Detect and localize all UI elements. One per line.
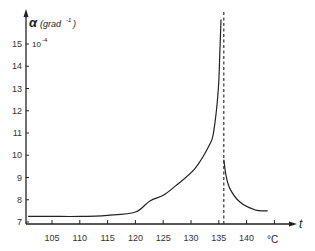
y-axis-symbol: α [29,15,38,30]
curve-above-transition [224,160,268,211]
x-tick-label: 125 [156,233,171,243]
y-tick-label: 8 [17,195,22,205]
y-tick-label: 13 [12,84,22,94]
y-axis: 789101112131415 [12,9,29,227]
y-tick-label: 9 [17,173,22,183]
x-tick-label: 120 [128,233,143,243]
x-axis: 105110115120125130135140 [26,220,297,243]
y-tick-label: 12 [12,106,22,116]
x-tick-label: 140 [239,233,254,243]
x-tick-label: 110 [73,233,87,243]
x-tick-label: 130 [183,233,198,243]
curve-below-transition [28,20,221,217]
x-tick-label: 135 [211,233,226,243]
x-axis-symbol: t [299,217,303,231]
y-tick-label: 11 [13,128,22,138]
x-axis-unit: °C [267,234,278,245]
x-axis-arrow-icon [289,222,297,227]
y-axis-unit-exponent: -1 [66,17,71,23]
x-tick-label: 105 [44,233,59,243]
y-axis-unit: (grad [40,19,62,29]
y-tick-label: 7 [17,217,22,227]
y-tick-label: 10 [12,150,22,160]
y-axis-unit-close: ) [72,19,76,29]
y-tick-label: 15 [12,39,22,49]
chart: 789101112131415 105110115120125130135140… [0,0,315,251]
plot-area [28,12,268,224]
y-scale-factor: 10 [32,40,41,49]
y-axis-arrow-icon [24,9,29,17]
x-tick-label: 115 [100,233,114,243]
y-scale-exponent: -4 [42,37,48,43]
y-tick-label: 14 [12,61,22,71]
